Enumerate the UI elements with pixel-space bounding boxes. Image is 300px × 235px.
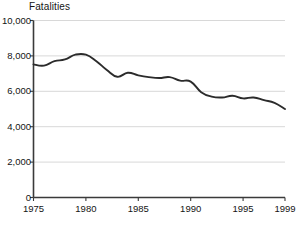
fatalities-line-chart: Fatalities 02,0004,0006,0008,00010,000 1… <box>0 0 300 235</box>
y-axis-tick-label: 6,000 <box>0 86 31 96</box>
x-axis-tick-label: 1980 <box>75 203 96 214</box>
x-axis-tick-label: 1999 <box>274 203 295 214</box>
y-axis-tick-label: 0 <box>0 193 31 203</box>
gridlines <box>34 21 286 163</box>
data-series-line <box>34 54 286 109</box>
x-axis-tick-label: 1985 <box>128 203 149 214</box>
y-axis-tick-label: 8,000 <box>0 51 31 61</box>
axis-ticks <box>30 21 285 202</box>
axis-lines <box>34 21 286 198</box>
y-axis-tick-label: 2,000 <box>0 157 31 167</box>
x-axis-tick-label: 1975 <box>23 203 44 214</box>
x-axis-tick-label: 1995 <box>233 203 254 214</box>
x-axis-tick-label: 1990 <box>180 203 201 214</box>
y-axis-tick-label: 4,000 <box>0 122 31 132</box>
y-axis-tick-label: 10,000 <box>0 16 31 26</box>
plot-area <box>0 0 300 235</box>
